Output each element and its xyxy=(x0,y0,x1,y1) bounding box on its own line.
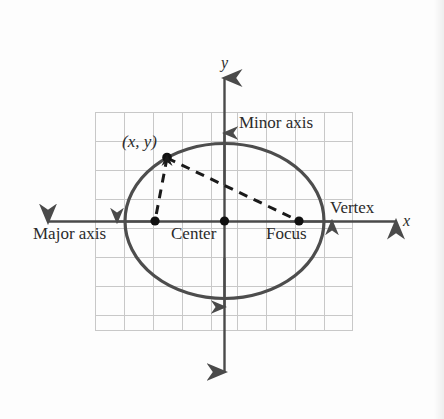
label-point-xy: (x, y) xyxy=(122,133,157,150)
marked-points xyxy=(150,153,303,226)
label-y-axis: y xyxy=(221,55,228,71)
label-vertex: Vertex xyxy=(330,199,374,216)
segment-point-to-focus xyxy=(167,158,299,221)
label-x-axis: x xyxy=(403,213,410,229)
label-minor-axis: Minor axis xyxy=(239,114,313,131)
point-center xyxy=(220,216,229,225)
segment-point-to-foot xyxy=(155,158,167,221)
ellipse-diagram-figure: Minor axis Major axis Center Focus Verte… xyxy=(0,0,444,419)
label-focus: Focus xyxy=(266,225,307,242)
page-edge-shadow xyxy=(434,0,444,419)
label-center: Center xyxy=(171,225,216,242)
point-foot xyxy=(150,216,159,225)
label-major-axis: Major axis xyxy=(33,225,106,242)
focal-radii xyxy=(155,158,299,221)
